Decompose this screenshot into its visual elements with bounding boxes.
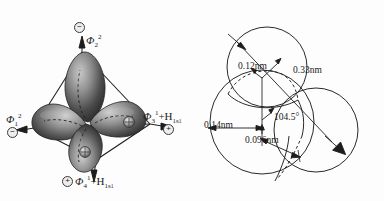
orbital-label-bottom: Φ41+H1s1 [75, 175, 114, 190]
hydrogen-sphere-right [274, 88, 358, 172]
water-molecule-diagram: 0.12nm 0.33nm 0.14nm 104.5° 0.096nm [192, 0, 384, 201]
orbital-label-right: Φ31+H1s1 [143, 110, 182, 125]
water-molecule-svg [192, 0, 384, 201]
dimension-label-span: 0.33nm [293, 66, 322, 76]
sp3-orbital-diagram: − Φ22 Φ12 − Φ31+H1s1 + + Φ41+H1s1 [0, 0, 192, 201]
charge-right-plus: + [163, 124, 174, 135]
dimension-label-h-radius: 0.12nm [238, 62, 267, 72]
dimension-label-bond-angle: 104.5° [274, 113, 299, 123]
charge-bottom-plus: + [62, 176, 73, 187]
orbital-label-top: Φ22 [86, 34, 101, 49]
dimension-label-o-radius: 0.14nm [204, 121, 233, 131]
charge-left-minus: − [7, 127, 18, 138]
figure-root: − Φ22 Φ12 − Φ31+H1s1 + + Φ41+H1s1 [0, 0, 384, 201]
sp3-orbital-svg [0, 0, 192, 201]
orbital-label-left: Φ12 [6, 113, 21, 128]
charge-top-minus: − [74, 22, 85, 33]
dimension-label-bond-length: 0.096nm [245, 136, 279, 146]
